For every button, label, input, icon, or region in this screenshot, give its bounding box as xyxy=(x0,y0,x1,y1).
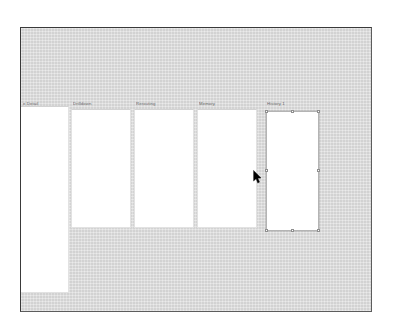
resize-handle-se[interactable] xyxy=(317,229,320,232)
column-label-5: History 1 xyxy=(267,101,285,107)
column-label-2: Drilldown xyxy=(73,101,91,107)
resize-handle-n[interactable] xyxy=(291,110,294,113)
content-panel-3[interactable] xyxy=(134,109,194,228)
resize-handle-w[interactable] xyxy=(265,169,268,172)
content-panel-1[interactable] xyxy=(21,106,69,293)
resize-handle-ne[interactable] xyxy=(317,110,320,113)
column-label-3: Rerouting xyxy=(136,101,155,107)
resize-handle-sw[interactable] xyxy=(265,229,268,232)
resize-handle-e[interactable] xyxy=(317,169,320,172)
workspace-canvas[interactable]: e Detail Drilldown Rerouting Memory Hist… xyxy=(21,28,371,311)
resize-handle-nw[interactable] xyxy=(265,110,268,113)
content-panel-5[interactable] xyxy=(266,111,319,231)
content-panel-4[interactable] xyxy=(197,109,257,228)
column-label-4: Memory xyxy=(199,101,215,107)
content-panel-2[interactable] xyxy=(71,109,131,228)
resize-handle-s[interactable] xyxy=(291,229,294,232)
application-frame: e Detail Drilldown Rerouting Memory Hist… xyxy=(20,27,372,312)
